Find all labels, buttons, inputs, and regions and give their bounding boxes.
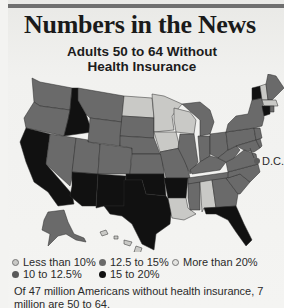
chart-title-line-2: Health Insurance [0, 59, 284, 74]
legend-label: 15 to 20% [110, 268, 160, 280]
dc-marker [254, 158, 260, 164]
state-nm [96, 174, 126, 208]
state-wy [88, 118, 122, 146]
legend-label: 12.5 to 15% [110, 256, 169, 268]
state-ar [164, 178, 188, 198]
dc-label: D.C. [262, 155, 284, 167]
legend-swatch-icon [12, 259, 19, 266]
legend-item-more-than-20: More than 20% [172, 256, 258, 268]
state-ri [270, 106, 274, 112]
map-svg [14, 74, 284, 252]
legend-swatch-icon [99, 259, 106, 266]
legend-swatch-icon [12, 271, 19, 278]
top-rule [8, 4, 284, 8]
state-ms [188, 182, 200, 210]
headline: Numbers in the News [24, 10, 256, 40]
state-az [70, 172, 98, 206]
state-sd [120, 116, 154, 138]
state-ut [72, 138, 100, 174]
chart-title-line-1: Adults 50 to 64 Without [0, 44, 284, 59]
state-fl [204, 206, 252, 246]
state-ma [262, 100, 278, 106]
legend-label: More than 20% [183, 256, 258, 268]
legend-item-15-to-20: 15 to 20% [99, 268, 160, 280]
state-ak [42, 210, 86, 246]
state-hi [100, 230, 142, 252]
footnote: Of 47 million Americans without health i… [14, 285, 280, 308]
state-me [266, 74, 284, 100]
legend-item-12-5-to-15: 12.5 to 15% [99, 256, 169, 268]
legend-label: Less than 10% [23, 256, 96, 268]
state-nd [122, 96, 154, 118]
chart-title: Adults 50 to 64 Without Health Insurance [0, 44, 284, 74]
legend-label: 10 to 12.5% [23, 268, 82, 280]
state-co [98, 144, 132, 174]
state-ks [130, 154, 164, 174]
legend-swatch-icon [172, 259, 179, 266]
us-choropleth-map [14, 74, 284, 252]
legend-swatch-icon [99, 271, 106, 278]
state-ny [226, 98, 264, 132]
legend-item-less-than-10: Less than 10% [12, 256, 96, 268]
legend-item-10-to-12-5: 10 to 12.5% [12, 268, 82, 280]
